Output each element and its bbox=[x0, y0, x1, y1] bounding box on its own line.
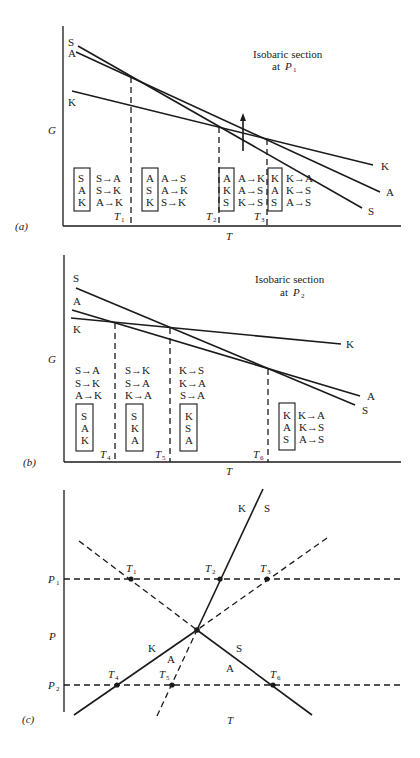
panel-a-curve-A bbox=[76, 52, 380, 192]
panel-c-field-label-lower-A-left: A bbox=[167, 653, 175, 665]
svg-text:2: 2 bbox=[301, 292, 305, 300]
svg-text:S→K: S→K bbox=[125, 364, 150, 376]
svg-text:A→S: A→S bbox=[238, 184, 263, 196]
panel-a-label-T3: T 3 bbox=[254, 210, 265, 224]
svg-text:S: S bbox=[146, 184, 152, 196]
svg-text:at: at bbox=[272, 60, 280, 72]
svg-text:A: A bbox=[146, 172, 154, 184]
svg-text:T: T bbox=[155, 448, 162, 460]
svg-text:3: 3 bbox=[267, 568, 271, 576]
svg-text:K→A: K→A bbox=[298, 409, 325, 421]
svg-text:K→S: K→S bbox=[286, 184, 311, 196]
svg-text:4: 4 bbox=[115, 674, 119, 682]
svg-text:S→A: S→A bbox=[96, 172, 121, 184]
svg-text:A: A bbox=[223, 172, 231, 184]
panel-c-triple-point bbox=[194, 627, 200, 633]
svg-text:S: S bbox=[78, 172, 84, 184]
panel-b-y-label: G bbox=[48, 353, 56, 365]
svg-text:K→S: K→S bbox=[179, 364, 204, 376]
svg-text:P: P bbox=[47, 573, 55, 585]
svg-text:1: 1 bbox=[133, 568, 137, 576]
panel-a-title-line2: at P 1 bbox=[272, 60, 297, 74]
panel-a-curve-label-K-left: K bbox=[68, 96, 76, 108]
svg-text:K→S: K→S bbox=[238, 196, 263, 208]
panel-b-region-2: S→K S→A K→A S K A bbox=[125, 364, 152, 451]
panel-a-curve-label-K-right: K bbox=[381, 160, 389, 172]
panel-c-point-T6 bbox=[270, 682, 275, 687]
panel-a-region-2: A S K A→S A→K S→K bbox=[142, 168, 188, 211]
svg-text:A: A bbox=[271, 184, 279, 196]
svg-text:A: A bbox=[131, 434, 139, 446]
svg-text:K: K bbox=[78, 196, 86, 208]
svg-text:S: S bbox=[271, 196, 277, 208]
panel-b-curve-label-K-left: K bbox=[73, 323, 81, 335]
panel-b-x-label: T bbox=[226, 465, 233, 477]
panel-c-y-label: P bbox=[48, 630, 56, 642]
svg-text:A: A bbox=[283, 421, 291, 433]
svg-text:3: 3 bbox=[261, 216, 265, 224]
svg-text:T: T bbox=[126, 562, 133, 574]
svg-text:T: T bbox=[159, 668, 166, 680]
svg-text:5: 5 bbox=[162, 454, 166, 462]
svg-text:K: K bbox=[81, 434, 89, 446]
panel-b-curve-K bbox=[71, 318, 341, 344]
svg-text:A→K: A→K bbox=[96, 196, 123, 208]
panel-a-label: (a) bbox=[15, 220, 28, 233]
svg-text:S: S bbox=[131, 410, 137, 422]
panel-b-curve-S bbox=[76, 288, 355, 405]
svg-text:at: at bbox=[280, 286, 288, 298]
svg-text:A→S: A→S bbox=[161, 172, 186, 184]
panel-c: P T (c) P 1 P 2 T 1 bbox=[22, 489, 402, 726]
svg-text:A→K: A→K bbox=[238, 172, 265, 184]
panel-c-label-T3: T 3 bbox=[260, 562, 271, 576]
panel-b-label-T6: T 6 bbox=[253, 448, 264, 462]
svg-text:T: T bbox=[100, 448, 107, 460]
svg-text:2: 2 bbox=[213, 216, 217, 224]
panel-a-curve-K bbox=[72, 91, 373, 165]
panel-c-boundary-K-S-upper bbox=[197, 489, 263, 630]
panel-b-label-T4: T 4 bbox=[100, 448, 111, 462]
svg-text:K: K bbox=[131, 422, 139, 434]
panel-c-field-label-upper-K: K bbox=[238, 502, 246, 514]
panel-b-label: (b) bbox=[23, 456, 36, 469]
panel-c-point-T1 bbox=[128, 576, 133, 581]
svg-text:S→K: S→K bbox=[96, 184, 121, 196]
panel-c-label-T2: T 2 bbox=[205, 562, 216, 576]
panel-c-point-T3 bbox=[264, 576, 269, 581]
svg-text:A→S: A→S bbox=[286, 196, 311, 208]
panel-c-label-T4: T 4 bbox=[108, 668, 119, 682]
svg-text:A: A bbox=[81, 422, 89, 434]
panel-a: G T (a) Isobaric section at P 1 S A K K … bbox=[15, 26, 401, 242]
panel-b-curve-label-A-left: A bbox=[73, 295, 81, 307]
svg-text:K→A: K→A bbox=[125, 389, 152, 401]
svg-text:K: K bbox=[185, 410, 193, 422]
svg-text:6: 6 bbox=[277, 674, 281, 682]
panel-a-region-3: A K S A→K A→S K→S bbox=[219, 168, 265, 211]
panel-c-label-T6: T 6 bbox=[270, 668, 281, 682]
panel-a-curve-label-A-right: A bbox=[386, 186, 394, 198]
panel-c-field-label-lower-A-right: A bbox=[226, 662, 234, 674]
svg-text:T: T bbox=[253, 448, 260, 460]
svg-text:T: T bbox=[260, 562, 267, 574]
panel-b-label-T5: T 5 bbox=[155, 448, 166, 462]
svg-text:A: A bbox=[185, 434, 193, 446]
panel-c-boundary-upper-right bbox=[197, 538, 327, 630]
panel-c-field-label-lower-K: K bbox=[148, 642, 156, 654]
panel-c-point-T2 bbox=[217, 576, 222, 581]
panel-c-x-label: T bbox=[227, 714, 234, 726]
panel-a-label-T2: T 2 bbox=[206, 210, 217, 224]
panel-b-title-line1: Isobaric section bbox=[255, 273, 325, 285]
panel-a-region-1: S A K S→A S→K A→K bbox=[74, 168, 123, 211]
panel-b-curve-label-S-right: S bbox=[362, 404, 368, 416]
svg-text:P: P bbox=[47, 679, 55, 691]
svg-text:T: T bbox=[108, 668, 115, 680]
svg-text:T: T bbox=[270, 668, 277, 680]
svg-text:S: S bbox=[185, 422, 191, 434]
svg-text:K: K bbox=[283, 409, 291, 421]
panel-b: G T (b) Isobaric section at P 2 S A K K … bbox=[23, 255, 401, 477]
svg-text:S→K: S→K bbox=[75, 377, 100, 389]
svg-text:K: K bbox=[223, 184, 231, 196]
svg-text:S→A: S→A bbox=[180, 389, 205, 401]
svg-text:2: 2 bbox=[56, 685, 60, 693]
svg-text:K→A: K→A bbox=[179, 377, 206, 389]
